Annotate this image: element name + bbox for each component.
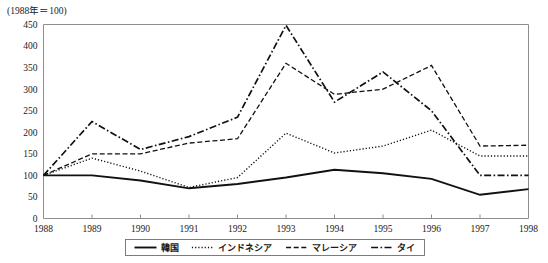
y-axis-tick-label: 100 [23, 171, 38, 181]
x-axis-tick-label: 1996 [422, 224, 441, 234]
y-axis-tick-label: 300 [23, 85, 38, 95]
plot-frame-group [44, 25, 529, 219]
y-axis-tick-label: 450 [23, 20, 38, 30]
series-group [44, 25, 529, 194]
legend-label-2: マレーシア [312, 243, 357, 253]
plot-frame [44, 25, 529, 219]
x-axis-tick-label: 1998 [519, 224, 538, 234]
x-axis-tick-label: 1991 [180, 224, 199, 234]
y-axis-tick-label: 250 [23, 106, 38, 116]
x-axis-tick-label: 1994 [325, 224, 344, 234]
chart-container: (1988年＝100) 050100150200250300350400450 … [0, 0, 548, 263]
legend-label-3: タイ [397, 242, 415, 253]
y-axis-tick-label: 350 [23, 63, 38, 73]
x-axis-tick-label: 1997 [471, 224, 490, 234]
legend-label-0: 韓国 [161, 242, 179, 253]
series-line-2 [44, 63, 529, 175]
y-axis-tick-label: 400 [23, 41, 38, 51]
x-axis-tick-label: 1995 [374, 224, 393, 234]
x-axis-tick-label: 1989 [83, 224, 102, 234]
x-axis-tick-label: 1990 [131, 224, 150, 234]
y-axis-tick-label: 150 [23, 149, 38, 159]
x-axis-tick-label: 1992 [228, 224, 247, 234]
x-axis-tick-group: 1988198919901991199219931994199519961997… [34, 215, 538, 234]
y-axis-tick-label: 50 [28, 192, 38, 202]
series-line-0 [44, 170, 529, 195]
y-axis-tick-label: 200 [23, 128, 38, 138]
legend-label-1: インドネシア [218, 243, 272, 253]
legend-group: 韓国インドネシアマレーシアタイ [126, 240, 425, 256]
y-axis-tick-label: 0 [33, 214, 38, 224]
x-axis-tick-label: 1988 [34, 224, 53, 234]
y-axis-tick-group: 050100150200250300350400450 [23, 20, 38, 224]
x-axis-tick-label: 1993 [277, 224, 296, 234]
series-line-3 [44, 25, 529, 175]
chart-plot-svg: 050100150200250300350400450 198819891990… [0, 0, 548, 263]
